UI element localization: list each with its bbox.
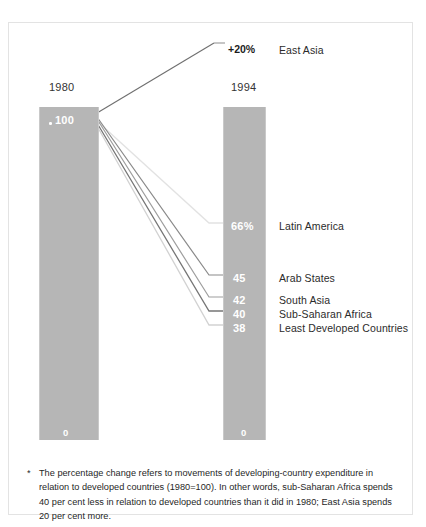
footnote-marker: * — [27, 466, 31, 480]
value-sub-saharan-africa: 40 — [233, 308, 246, 320]
value-least-developed: 38 — [233, 322, 246, 334]
year-label-1994: 1994 — [231, 81, 256, 93]
line-latin-america — [97, 121, 223, 223]
figure-panel: 1980 1994 100 0 0 +20% 66% 45 42 40 38 E… — [8, 22, 413, 515]
line-sub-saharan-africa — [97, 123, 223, 311]
value-south-asia: 42 — [233, 294, 246, 306]
label-latin-america: Latin America — [279, 220, 344, 232]
footnote: * The percentage change refers to moveme… — [27, 466, 399, 523]
label-least-developed-countries: Least Developed Countries — [279, 322, 408, 334]
year-label-1980: 1980 — [49, 81, 74, 93]
bar-1980 — [39, 107, 99, 440]
value-latin-america: 66% — [231, 220, 254, 232]
line-east-asia — [97, 43, 214, 113]
value-zero-right: 0 — [241, 427, 246, 438]
footnote-text: The percentage change refers to movement… — [27, 466, 399, 523]
label-sub-saharan-africa: Sub-Saharan Africa — [279, 308, 372, 320]
label-east-asia: East Asia — [279, 44, 324, 56]
line-south-asia — [97, 119, 223, 297]
value-baseline-100: 100 — [55, 114, 74, 126]
line-arab-states — [97, 117, 223, 275]
chart-area: 1980 1994 100 0 0 +20% 66% 45 42 40 38 E… — [9, 23, 412, 514]
value-east-asia: +20% — [228, 43, 255, 55]
label-arab-states: Arab States — [279, 272, 335, 284]
label-south-asia: South Asia — [279, 294, 330, 306]
value-arab-states: 45 — [233, 272, 246, 284]
value-zero-left: 0 — [63, 427, 68, 438]
baseline-dot-icon — [49, 122, 52, 125]
